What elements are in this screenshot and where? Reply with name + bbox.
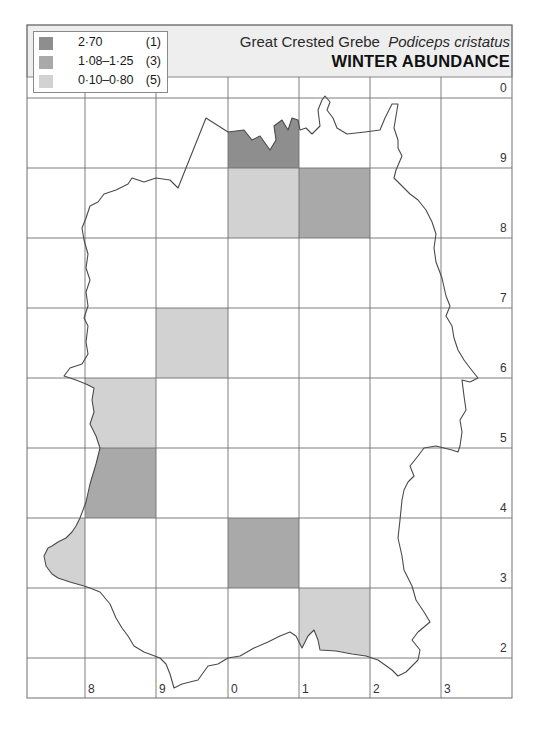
grid-label-easting: 1 [302,682,309,696]
legend-item: 2·70 (1) [34,35,167,53]
species-latin-name: Podiceps cristatus [388,33,510,50]
species-title: Great Crested Grebe Podiceps cristatus [240,33,510,50]
legend-range: 2·70 [78,35,102,49]
grid-label-northing: 3 [500,571,507,585]
grid-label-northing: 7 [500,291,507,305]
legend-count: (3) [146,54,161,68]
legend-swatch-light [39,75,53,88]
legend-swatch-dark [39,37,53,50]
grid-label-easting: 8 [88,682,95,696]
map-title: WINTER ABUNDANCE [331,52,510,71]
grid-label-northing: 4 [500,501,507,515]
grid-label-easting: 9 [159,682,166,696]
cell-medium [85,448,156,518]
legend: 2·70 (1) 1·08–1·25 (3) 0·10–0·80 (5) [33,31,168,93]
grid-label-easting: 2 [373,682,380,696]
legend-range: 0·10–0·80 [78,73,133,87]
legend-item: 0·10–0·80 (5) [34,73,167,91]
map-frame [27,25,512,698]
grid-label-easting: 0 [231,682,238,696]
legend-swatch-medium [39,56,53,69]
cell-light [85,378,156,448]
legend-item: 1·08–1·25 (3) [34,54,167,72]
species-common-name: Great Crested Grebe [240,33,380,50]
cell-light [27,518,85,588]
grid-label-easting: 3 [444,682,451,696]
cell-light [156,308,228,378]
cell-light [299,588,370,658]
grid-label-northing: 5 [500,431,507,445]
grid-label-northing: 6 [500,361,507,375]
legend-count: (5) [146,73,161,87]
grid-label-northing: 2 [500,641,507,655]
distribution-map [0,0,536,740]
cell-dark [228,98,299,168]
cell-light [228,168,299,238]
legend-range: 1·08–1·25 [78,54,133,68]
cell-medium [228,518,299,588]
grid-label-northing: 0 [500,81,507,95]
cell-medium [299,168,370,238]
legend-count: (1) [146,35,161,49]
grid-label-northing: 9 [500,151,507,165]
grid-label-northing: 8 [500,221,507,235]
